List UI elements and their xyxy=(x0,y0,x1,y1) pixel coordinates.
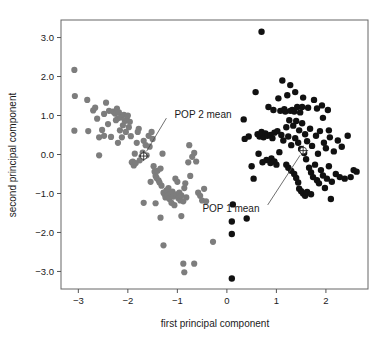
data-point xyxy=(210,239,216,245)
pca-scatter-figure: −3−2−1012 3.02.01.00.0−1.0−2.0−3.0 POP 2… xyxy=(0,0,383,339)
data-point xyxy=(292,89,298,95)
data-point xyxy=(119,134,125,140)
data-point xyxy=(323,145,329,151)
data-point xyxy=(326,163,332,169)
x-tick-label: −3 xyxy=(73,295,84,306)
data-point xyxy=(105,121,111,127)
scatter-plot-canvas: −3−2−1012 3.02.01.00.0−1.0−2.0−3.0 POP 2… xyxy=(0,0,383,339)
data-point xyxy=(229,275,235,281)
data-point xyxy=(72,93,78,99)
y-tick-label: 0.0 xyxy=(41,149,54,160)
data-point xyxy=(141,200,147,206)
data-point xyxy=(171,202,177,208)
data-point xyxy=(127,119,133,125)
data-point xyxy=(303,156,309,162)
data-point xyxy=(283,124,289,130)
data-point xyxy=(201,186,207,192)
annotation-label: POP 2 mean xyxy=(174,109,231,120)
data-point xyxy=(152,200,158,206)
data-point xyxy=(318,167,324,173)
data-point xyxy=(180,261,186,267)
data-point xyxy=(353,168,359,174)
data-point xyxy=(241,116,247,122)
data-point xyxy=(158,183,164,189)
y-tick-label: 2.0 xyxy=(41,71,54,82)
data-point xyxy=(293,118,299,124)
data-point xyxy=(71,128,77,134)
data-point xyxy=(92,105,98,111)
data-point xyxy=(297,109,303,115)
data-point xyxy=(160,242,166,248)
y-tick-label: −1.0 xyxy=(35,188,54,199)
data-point xyxy=(299,120,305,126)
y-axis-title: second principal component xyxy=(7,93,18,218)
data-point xyxy=(279,77,285,83)
data-point xyxy=(321,140,327,146)
data-point xyxy=(94,116,100,122)
data-point xyxy=(193,158,199,164)
data-point xyxy=(288,142,294,148)
data-point xyxy=(275,95,281,101)
data-point xyxy=(309,143,315,149)
data-point xyxy=(96,152,102,158)
data-point xyxy=(250,175,256,181)
data-point xyxy=(286,117,292,123)
data-point xyxy=(115,140,121,146)
data-point xyxy=(316,180,322,186)
data-point xyxy=(187,173,193,179)
data-point xyxy=(278,132,284,138)
data-point xyxy=(325,107,331,113)
data-point xyxy=(299,104,305,110)
y-tick-label: 3.0 xyxy=(41,32,54,43)
data-point xyxy=(295,140,301,146)
data-point xyxy=(136,126,142,132)
y-tick-label: 1.0 xyxy=(41,110,54,121)
data-point xyxy=(84,97,90,103)
data-point xyxy=(314,105,320,111)
data-point xyxy=(191,150,197,156)
annotation-label: POP 1 mean xyxy=(202,203,259,214)
data-point xyxy=(252,89,258,95)
x-tick-label: −2 xyxy=(122,295,133,306)
figure-background xyxy=(0,0,383,339)
data-point xyxy=(276,149,282,155)
data-point xyxy=(296,127,302,133)
x-tick-label: −1 xyxy=(172,295,183,306)
data-point xyxy=(329,179,335,185)
data-point xyxy=(126,124,132,130)
data-point xyxy=(311,97,317,103)
data-point xyxy=(285,133,291,139)
data-point xyxy=(85,128,91,134)
data-point xyxy=(243,215,249,221)
data-point xyxy=(258,29,264,35)
data-point xyxy=(148,179,154,185)
data-point xyxy=(182,180,188,186)
data-point xyxy=(317,128,323,134)
data-point xyxy=(342,175,348,181)
data-point xyxy=(99,127,105,133)
x-tick-label: 1 xyxy=(274,295,279,306)
data-point xyxy=(229,218,235,224)
y-tick-label: −3.0 xyxy=(35,266,54,277)
data-point xyxy=(186,142,192,148)
data-point xyxy=(108,134,114,140)
data-point xyxy=(283,161,289,167)
data-point xyxy=(304,138,310,144)
data-point xyxy=(185,159,191,165)
data-point xyxy=(312,161,318,167)
data-point xyxy=(284,92,290,98)
x-tick-label: 0 xyxy=(224,295,229,306)
data-point xyxy=(307,126,313,132)
x-axis-title: first principal component xyxy=(161,318,270,329)
data-point xyxy=(300,94,306,100)
data-point xyxy=(335,137,341,143)
data-point xyxy=(345,133,351,139)
data-point xyxy=(287,82,293,88)
data-point xyxy=(128,133,134,139)
data-point xyxy=(270,107,276,113)
data-point xyxy=(132,151,138,157)
data-point xyxy=(159,151,165,157)
data-point xyxy=(308,191,314,197)
data-point xyxy=(269,135,275,141)
data-point xyxy=(157,215,163,221)
